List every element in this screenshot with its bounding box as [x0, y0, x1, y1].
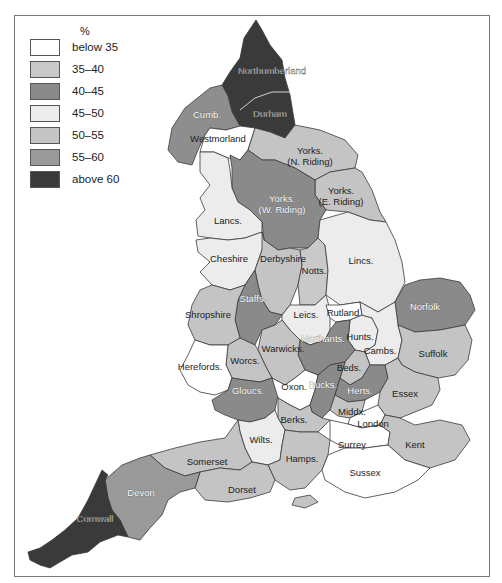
- label-leics: Leics.: [294, 309, 319, 320]
- legend-label: 40–45: [72, 85, 104, 97]
- legend-swatch: [30, 171, 60, 188]
- label-lancs: Lancs.: [214, 215, 242, 226]
- label-yorks-e-1: Yorks.: [328, 185, 354, 196]
- label-shropshire: Shropshire: [185, 309, 231, 320]
- legend-title: %: [80, 25, 90, 37]
- label-rutland: Rutland: [327, 307, 360, 318]
- label-berks: Berks.: [281, 414, 308, 425]
- legend-label: above 60: [72, 173, 119, 185]
- legend-label: 45–50: [72, 107, 104, 119]
- label-wilts: Wilts.: [249, 434, 272, 445]
- legend-swatch: [30, 61, 60, 78]
- legend-item: 40–45: [30, 82, 104, 100]
- label-oxon: Oxon.: [281, 381, 306, 392]
- legend-item: 35–40: [30, 60, 104, 78]
- label-cambs: Cambs.: [364, 345, 397, 356]
- legend-item: above 60: [30, 170, 119, 188]
- label-beds: Beds.: [337, 362, 361, 373]
- label-yorks-w-2: (W. Riding): [259, 204, 306, 215]
- legend-item: below 35: [30, 38, 118, 56]
- legend-swatch: [30, 105, 60, 122]
- label-middx: Middx.: [338, 406, 366, 417]
- label-cheshire: Cheshire: [210, 253, 248, 264]
- legend-label: below 35: [72, 41, 118, 53]
- label-herts: Herts.: [347, 385, 372, 396]
- label-kent: Kent: [405, 439, 425, 450]
- label-warwicks: Warwicks.: [262, 343, 305, 354]
- legend-item: 50–55: [30, 126, 104, 144]
- label-notts: Notts.: [302, 265, 327, 276]
- label-hamps: Hamps.: [286, 453, 319, 464]
- label-staffs: Staffs.: [240, 293, 267, 304]
- legend-item: 45–50: [30, 104, 104, 122]
- legend-swatch: [30, 127, 60, 144]
- label-northants: Northants.: [301, 333, 345, 344]
- label-lincs: Lincs.: [349, 255, 374, 266]
- legend-label: 35–40: [72, 63, 104, 75]
- legend-item: 55–60: [30, 148, 104, 166]
- label-bucks: Bucks.: [309, 379, 338, 390]
- label-worcs: Worcs.: [230, 355, 259, 366]
- legend-label: 55–60: [72, 151, 104, 163]
- label-yorks-n-1: Yorks.: [297, 145, 323, 156]
- label-gloucs: Gloucs.: [232, 385, 264, 396]
- legend-label: 50–55: [72, 129, 104, 141]
- label-cornwall: Cornwall: [77, 513, 114, 524]
- legend-swatch: [30, 39, 60, 56]
- label-hunts: Hunts.: [346, 331, 373, 342]
- label-sussex: Sussex: [349, 467, 380, 478]
- label-yorks-e-2: (E. Riding): [319, 196, 364, 207]
- county-isle-of-wight[interactable]: [292, 495, 318, 508]
- label-surrey: Surrey: [338, 439, 366, 450]
- label-suffolk: Suffolk: [419, 348, 448, 359]
- label-dorset: Dorset: [228, 484, 256, 495]
- label-essex: Essex: [392, 388, 418, 399]
- label-derbyshire: Derbyshire: [260, 253, 306, 264]
- legend-swatch: [30, 149, 60, 166]
- label-norfolk: Norfolk: [410, 301, 440, 312]
- label-durham: Durham: [253, 108, 287, 119]
- label-somerset: Somerset: [187, 456, 228, 467]
- label-london: London: [357, 418, 389, 429]
- label-herefords: Herefords.: [178, 361, 222, 372]
- label-westmorland: Westmorland: [190, 133, 246, 144]
- label-yorks-w-1: Yorks.: [269, 193, 295, 204]
- label-devon: Devon: [127, 487, 154, 498]
- legend-swatch: [30, 83, 60, 100]
- county-somerset[interactable]: [150, 420, 252, 476]
- label-yorks-n-2: (N. Riding): [287, 156, 332, 167]
- label-cumb: Cumb.: [193, 109, 221, 120]
- label-northumberland: Northumberland: [238, 65, 306, 76]
